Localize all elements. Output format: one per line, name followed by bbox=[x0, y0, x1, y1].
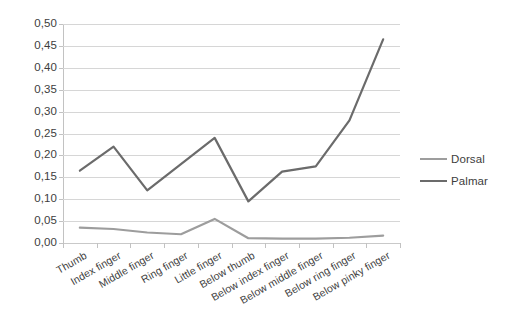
legend-label-dorsal: Dorsal bbox=[451, 153, 485, 165]
legend-swatch-palmar bbox=[420, 180, 447, 183]
y-axis-tick-mark bbox=[59, 155, 63, 156]
y-axis-tick-mark bbox=[59, 134, 63, 135]
series-line-dorsal bbox=[80, 219, 383, 239]
legend-label-palmar: Palmar bbox=[451, 175, 488, 187]
legend-swatch-dorsal bbox=[420, 158, 447, 161]
line-chart: 0,500,450,400,350,300,250,200,150,100,05… bbox=[0, 0, 505, 320]
y-axis-tick-mark bbox=[59, 199, 63, 200]
y-axis-tick-mark bbox=[59, 243, 63, 244]
series-line-palmar bbox=[80, 39, 383, 201]
legend: Dorsal Palmar bbox=[420, 148, 500, 192]
y-axis-tick-mark bbox=[59, 24, 63, 25]
y-axis-tick-mark bbox=[59, 221, 63, 222]
legend-item-dorsal[interactable]: Dorsal bbox=[420, 148, 500, 170]
y-axis-tick-mark bbox=[59, 46, 63, 47]
y-axis-tick-mark bbox=[59, 112, 63, 113]
y-axis-tick-mark bbox=[59, 177, 63, 178]
y-axis-tick-mark bbox=[59, 90, 63, 91]
legend-item-palmar[interactable]: Palmar bbox=[420, 170, 500, 192]
y-axis-tick-mark bbox=[59, 68, 63, 69]
